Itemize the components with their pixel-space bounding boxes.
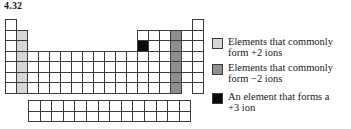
f-block-cell [179,111,192,123]
legend-plus2: Elements that commonly form +2 ions [212,36,351,58]
black-swatch-icon [212,93,223,104]
legend-plus2-line1: Elements that commonly [228,36,351,47]
legend-minus2-line1: Elements that commonly [228,62,351,73]
legend-plus2-line2: form +2 ions [228,47,351,58]
legend-minus2-line2: form −2 ions [228,73,351,84]
legend-minus2: Elements that commonly form −2 ions [212,62,351,84]
legend-plus3-line2: +3 ion [228,102,351,113]
element-cell [192,82,204,94]
legend-plus3: An element that forms a +3 ion [212,91,351,113]
problem-number: 4.32 [4,0,22,11]
minus2-element-cell [170,82,182,94]
legend-plus3-line1: An element that forms a [228,91,351,102]
dark-gray-swatch-icon [212,64,223,75]
light-gray-swatch-icon [212,38,223,49]
